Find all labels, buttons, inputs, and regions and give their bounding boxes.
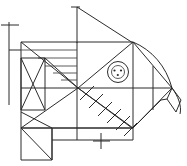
eye-inner-circle — [112, 66, 125, 79]
gill-hatch-tick-2 — [89, 94, 103, 108]
dorsal-fin — [71, 7, 133, 43]
lower-crossbox-upper-diagonal — [21, 112, 52, 128]
fold-diagonal-bottomleft-center — [21, 88, 78, 128]
eye-dot-bottom — [117, 74, 119, 76]
body-outline — [21, 42, 172, 128]
lower-crossbox-diagonal-a — [21, 128, 52, 160]
pectoral-crossbox — [21, 58, 45, 110]
belly-band — [52, 128, 133, 140]
eye-dot-right — [120, 69, 122, 71]
tail-fin-base-connector — [161, 99, 167, 100]
tail-fin — [161, 88, 181, 114]
dimension-line-left — [1, 22, 21, 105]
tick-mark-bottom — [93, 133, 110, 149]
fish-diagram-canvas — [0, 0, 187, 166]
fold-diagonal-topleft-center — [21, 42, 78, 88]
gill-hatch-tick-6 — [124, 123, 137, 136]
eye-outer-circle — [108, 62, 129, 83]
fold-diagonal-center-topright — [78, 42, 133, 88]
eye-button — [108, 62, 129, 83]
lower-crossbox — [21, 112, 52, 160]
origami-fish-figure — [0, 0, 187, 166]
eye-dot-left — [113, 69, 115, 71]
dorsal-fin-hypotenuse — [77, 7, 133, 43]
